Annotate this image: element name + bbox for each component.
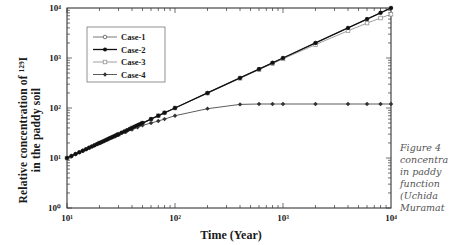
caption-line: (Uchida (400, 190, 453, 202)
y-axis-label-line1: Relative concentration of ¹²⁹I (17, 57, 30, 204)
y-tick-label: 10⁴ (49, 3, 61, 13)
legend: Case-1Case-2Case-3Case-4 (87, 27, 165, 82)
y-axis-label-line2: in the paddy soil (30, 57, 43, 204)
legend-label: Case-4 (121, 70, 146, 80)
x-tick-label: 10¹ (61, 213, 73, 223)
legend-label: Case-1 (121, 32, 146, 42)
caption-line: in paddy (400, 166, 453, 178)
x-tick-label: 10³ (277, 213, 289, 223)
caption-line: Muramat (400, 202, 453, 214)
x-tick-label: 10⁴ (385, 213, 397, 223)
caption-line: function (400, 178, 453, 190)
y-axis-label: Relative concentration of ¹²⁹I in the pa… (2, 50, 57, 210)
series-case-4 (65, 102, 393, 160)
legend-label: Case-2 (121, 45, 146, 55)
caption-line: Figure 4 (400, 142, 453, 154)
x-tick-label: 10² (169, 213, 181, 223)
figure-caption: Figure 4 concentra in paddy function (Uc… (400, 142, 453, 214)
legend-label: Case-3 (121, 57, 146, 67)
x-axis-label: Time (Year) (200, 228, 261, 242)
caption-line: concentra (400, 154, 453, 166)
